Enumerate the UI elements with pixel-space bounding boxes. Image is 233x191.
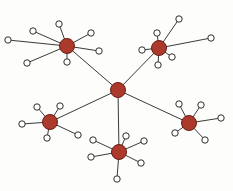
leaf-node[interactable] [88,154,94,160]
hub-node[interactable] [60,39,75,54]
leaf-node[interactable] [155,62,161,68]
node-layer [5,16,224,182]
leaf-node[interactable] [202,137,208,143]
leaf-node[interactable] [88,30,94,36]
leaf-node[interactable] [169,54,175,60]
backbone-edge [118,90,119,152]
leaf-node[interactable] [30,28,36,34]
leaf-node[interactable] [19,121,25,127]
leaf-node[interactable] [154,30,160,36]
hub-node[interactable] [43,115,58,130]
leaf-node[interactable] [5,37,11,43]
leaf-node[interactable] [176,16,182,22]
backbone-edge [67,46,118,90]
backbone-edge [118,48,159,90]
leaf-node[interactable] [24,60,30,66]
hub-node[interactable] [112,145,127,160]
hub-node[interactable] [182,116,197,131]
leaf-node[interactable] [56,21,62,27]
leaf-node[interactable] [44,135,50,141]
leaf-node[interactable] [141,138,147,144]
leaf-node[interactable] [176,101,182,107]
leaf-node[interactable] [123,133,129,139]
center-hub-node[interactable] [111,83,126,98]
leaf-node[interactable] [64,59,70,65]
leaf-node[interactable] [208,35,214,41]
network-graph-canvas [0,0,233,191]
leaf-node[interactable] [90,137,96,143]
leaf-node[interactable] [198,102,204,108]
leaf-node[interactable] [114,176,120,182]
network-graph-figure [0,0,233,191]
leaf-node[interactable] [96,48,102,54]
leaf-node[interactable] [57,103,63,109]
leaf-node[interactable] [172,130,178,136]
leaf-node[interactable] [34,104,40,110]
leaf-node[interactable] [218,115,224,121]
leaf-node[interactable] [75,132,81,138]
leaf-node[interactable] [139,47,145,53]
spoke-edge [8,40,67,46]
leaf-node[interactable] [138,160,144,166]
hub-node[interactable] [152,41,167,56]
